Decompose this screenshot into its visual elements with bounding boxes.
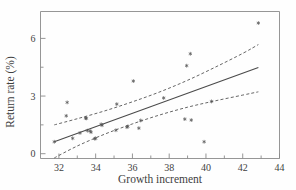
y-tick-label: 3 (31, 91, 36, 102)
x-tick-label: 42 (238, 162, 248, 173)
data-point-marker (137, 126, 140, 130)
data-point-marker (190, 118, 193, 122)
data-point-marker (257, 21, 260, 25)
y-axis-ticks (41, 38, 46, 153)
plot-frame (41, 12, 280, 159)
y-axis-tick-labels: 036 (31, 33, 36, 159)
x-axis-tick-labels: 32343638404244 (54, 162, 285, 173)
regression-line (54, 68, 258, 142)
confidence-band-lower (54, 92, 258, 158)
data-point-marker (132, 79, 135, 83)
y-tick-label: 0 (31, 148, 36, 159)
x-axis-label: Growth increment (118, 173, 203, 185)
x-tick-label: 32 (54, 162, 64, 173)
y-tick-label: 6 (31, 33, 36, 44)
data-point-marker (189, 52, 192, 56)
x-tick-label: 38 (164, 162, 174, 173)
scatter-plot-svg: 32343638404244 036 Growth increment Retu… (0, 0, 296, 190)
data-point-marker (114, 128, 117, 132)
data-point-marker (183, 117, 186, 121)
data-point-marker (66, 100, 69, 104)
x-tick-label: 44 (275, 162, 285, 173)
x-tick-label: 34 (91, 162, 101, 173)
x-axis-ticks (59, 154, 280, 159)
data-point-marker (115, 102, 118, 106)
x-tick-label: 40 (201, 162, 211, 173)
x-tick-label: 36 (127, 162, 137, 173)
regression-fit-line (54, 68, 258, 142)
data-point-marker (65, 114, 68, 118)
data-point-marker (185, 64, 188, 68)
data-point-marker (71, 136, 74, 140)
plot-border (41, 12, 280, 159)
confidence-band-curves (54, 45, 258, 158)
chart-figure: 32343638404244 036 Growth increment Retu… (0, 0, 296, 190)
data-point-marker (162, 96, 165, 100)
y-axis-label: Return rate (%) (4, 56, 17, 128)
data-point-markers (53, 21, 260, 144)
data-point-marker (202, 140, 205, 144)
confidence-band-upper (54, 45, 258, 125)
